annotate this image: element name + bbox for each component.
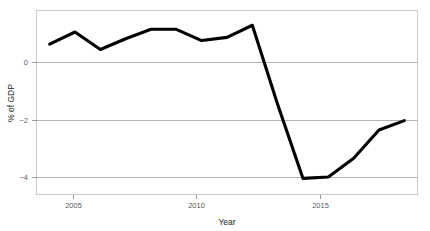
x-tick-label-2010: 2010 bbox=[188, 201, 205, 210]
x-axis-title: Year bbox=[218, 217, 235, 227]
x-tick-label-2005: 2005 bbox=[65, 201, 82, 210]
chart-figure: 0 −2 −4 2005 2010 2015 Year % of GDP bbox=[0, 0, 430, 231]
y-tick-label-0: 0 bbox=[24, 58, 28, 67]
chart-background bbox=[0, 0, 430, 231]
y-tick-label-minus-4: −4 bbox=[19, 173, 28, 182]
line-chart: 0 −2 −4 2005 2010 2015 Year % of GDP bbox=[0, 0, 430, 231]
y-axis-title: % of GDP bbox=[6, 84, 16, 122]
y-tick-label-minus-2: −2 bbox=[19, 116, 28, 125]
x-tick-label-2015: 2015 bbox=[312, 201, 329, 210]
